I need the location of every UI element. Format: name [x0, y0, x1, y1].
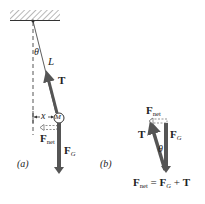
length-label: L	[48, 56, 54, 67]
theta-label-a: θ	[34, 47, 39, 57]
net-force-label-a: Fnet	[40, 133, 55, 146]
tension-label-a: T	[58, 75, 65, 86]
tension-arrow-a	[48, 76, 58, 113]
net-force-arrow-a	[40, 125, 57, 131]
tension-label-b: T	[138, 129, 145, 140]
gravity-label-a: FG	[64, 145, 76, 158]
theta-label-b: θ	[158, 144, 163, 154]
panel-a-label: (a)	[17, 159, 29, 169]
gravity-label-b: FG	[170, 129, 182, 142]
pendulum-diagram	[0, 0, 205, 204]
net-force-arrow-b	[149, 118, 167, 124]
displacement-label: x	[41, 111, 45, 121]
gravity-arrow-a	[54, 123, 64, 174]
mass-label: M	[55, 114, 61, 121]
net-force-label-b: Fnet	[146, 105, 161, 118]
equation: Fnet = FG + T	[133, 177, 190, 190]
panel-b-label: (b)	[100, 159, 112, 169]
ceiling	[10, 10, 60, 23]
